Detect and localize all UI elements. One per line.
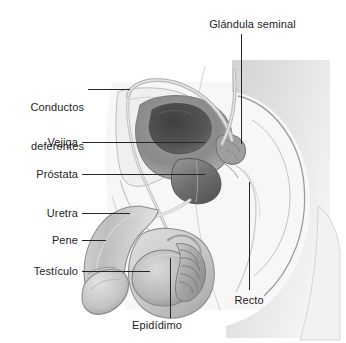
leader-pene — [82, 240, 106, 241]
leader-recto — [249, 182, 250, 290]
label-testiculo: Testículo — [10, 265, 78, 278]
label-pene: Pene — [18, 234, 78, 247]
label-uretra: Uretra — [14, 207, 78, 220]
leader-conductos-deferentes — [88, 89, 130, 90]
leader-vejiga — [82, 142, 205, 143]
label-conductos-deferentes-line1: Conductos — [6, 101, 84, 114]
anatomy-figure: Glándula seminal Conductos deferentes Ve… — [0, 0, 346, 343]
label-prostata: Próstata — [12, 168, 78, 181]
leader-uretra — [82, 213, 130, 214]
label-glandula-seminal: Glándula seminal — [190, 18, 315, 31]
leader-epididimo — [170, 258, 171, 318]
label-epididimo: Epidídimo — [118, 319, 196, 332]
label-vejiga: Vejiga — [14, 136, 78, 149]
label-conductos-deferentes: Conductos deferentes — [6, 75, 84, 179]
leader-testiculo — [82, 271, 150, 272]
leader-prostata — [82, 174, 205, 175]
label-recto: Recto — [222, 294, 276, 307]
leader-glandula-seminal — [241, 34, 242, 144]
